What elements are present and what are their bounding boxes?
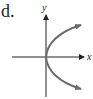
parabola-upper-branch xyxy=(46,25,81,57)
x-axis-label: x xyxy=(86,51,92,62)
parabola-lower-branch xyxy=(46,57,81,89)
graph: y x xyxy=(0,0,93,99)
y-axis-label: y xyxy=(41,2,47,13)
